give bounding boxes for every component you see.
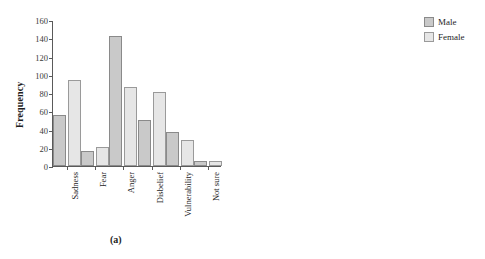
- x-axis-label-text: Fear: [98, 172, 108, 187]
- x-axis-label: Fear: [98, 157, 108, 172]
- panel-a: Frequency 020406080100120140160SadnessFe…: [0, 0, 243, 259]
- panel-caption-a: (a): [110, 234, 122, 245]
- x-axis-tick: [67, 166, 68, 170]
- x-axis-label-text: Vulnerability: [183, 172, 193, 217]
- legend-item-male: Male: [424, 16, 465, 28]
- x-axis-label-text: Anger: [126, 172, 136, 193]
- bar-male-not-sure: [194, 161, 207, 166]
- bar-male-anger: [109, 36, 122, 166]
- x-axis-tick: [95, 166, 96, 170]
- y-axis-tick: 20: [40, 144, 54, 154]
- x-axis-label: Sadness: [70, 145, 80, 172]
- legend-label-female: Female: [438, 32, 465, 42]
- x-axis-label: Disbelief: [155, 141, 165, 172]
- y-axis-tick: 0: [44, 162, 53, 172]
- x-axis-label-text: Disbelief: [155, 172, 165, 203]
- y-axis-label-a: Frequency: [14, 82, 25, 128]
- x-axis-label: Not sure: [211, 143, 221, 172]
- bar-male-disbelief: [138, 120, 151, 166]
- legend-item-female: Female: [424, 31, 465, 43]
- x-axis-tick: [123, 166, 124, 170]
- legend: Male Female: [424, 16, 465, 46]
- legend-label-male: Male: [438, 17, 457, 27]
- bar-male-sadness: [53, 115, 66, 166]
- x-axis-label-text: Not sure: [211, 172, 221, 201]
- x-axis-tick: [208, 166, 209, 170]
- y-axis-tick: 80: [40, 89, 54, 99]
- y-axis-tick: 40: [40, 126, 54, 136]
- x-axis-tick: [152, 166, 153, 170]
- y-axis-tick: 160: [35, 16, 53, 26]
- y-axis-tick: 140: [35, 34, 53, 44]
- bar-male-vulnerability: [166, 132, 179, 166]
- figure-grouped-bar-charts: Frequency 020406080100120140160SadnessFe…: [0, 0, 485, 259]
- legend-swatch-female-icon: [424, 32, 434, 42]
- plot-area-a: 020406080100120140160SadnessFearAngerDis…: [52, 21, 221, 167]
- x-axis-label: Vulnerability: [183, 127, 193, 172]
- y-axis-tick: 100: [35, 71, 53, 81]
- x-axis-tick: [180, 166, 181, 170]
- x-axis-label: Anger: [126, 151, 136, 172]
- bar-male-fear: [81, 151, 94, 167]
- y-axis-tick: 60: [40, 107, 54, 117]
- legend-swatch-male-icon: [424, 17, 434, 27]
- y-axis-tick: 120: [35, 53, 53, 63]
- x-axis-label-text: Sadness: [70, 172, 80, 199]
